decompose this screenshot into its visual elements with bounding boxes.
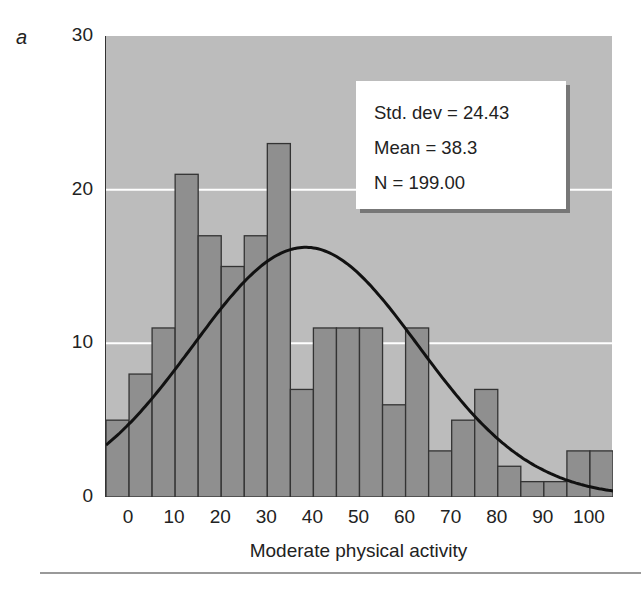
std-dev-label: Std. dev = 24.43 — [374, 95, 548, 130]
histogram-bar — [152, 328, 175, 497]
y-tick-label: 20 — [53, 178, 93, 200]
x-tick-label: 90 — [518, 506, 568, 528]
x-tick-label: 10 — [149, 506, 199, 528]
histogram-bar — [290, 389, 313, 497]
x-tick-label: 100 — [564, 506, 614, 528]
histogram-bar — [221, 267, 244, 498]
x-tick-label: 30 — [241, 506, 291, 528]
x-tick-label: 80 — [472, 506, 522, 528]
histogram-bar — [360, 328, 383, 497]
x-tick-label: 50 — [334, 506, 384, 528]
histogram-bar — [475, 389, 498, 497]
x-axis-label: Moderate physical activity — [105, 540, 612, 562]
divider — [40, 572, 641, 574]
mean-label: Mean = 38.3 — [374, 130, 548, 165]
histogram-bar — [521, 482, 544, 497]
histogram-bar — [244, 236, 267, 497]
histogram-bar — [175, 174, 198, 497]
n-label: N = 199.00 — [374, 165, 548, 200]
histogram-bar — [429, 451, 452, 497]
histogram-bar — [336, 328, 359, 497]
histogram-bar — [567, 451, 590, 497]
x-tick-label: 70 — [426, 506, 476, 528]
histogram-bar — [129, 374, 152, 497]
y-tick-label: 30 — [53, 24, 93, 46]
histogram-bar — [106, 420, 129, 497]
histogram-bar — [313, 328, 336, 497]
x-tick-label: 20 — [195, 506, 245, 528]
y-tick-label: 10 — [53, 331, 93, 353]
stats-legend: Std. dev = 24.43 Mean = 38.3 N = 199.00 — [356, 81, 566, 209]
histogram-bar — [383, 405, 406, 497]
y-tick-label: 0 — [53, 485, 93, 507]
x-tick-label: 60 — [380, 506, 430, 528]
histogram-bar — [544, 482, 567, 497]
histogram-bar — [498, 466, 521, 497]
histogram-bar — [267, 144, 290, 497]
x-tick-label: 0 — [103, 506, 153, 528]
histogram-bar — [198, 236, 221, 497]
histogram-bar — [452, 420, 475, 497]
x-tick-label: 40 — [287, 506, 337, 528]
panel-label: a — [16, 26, 27, 49]
